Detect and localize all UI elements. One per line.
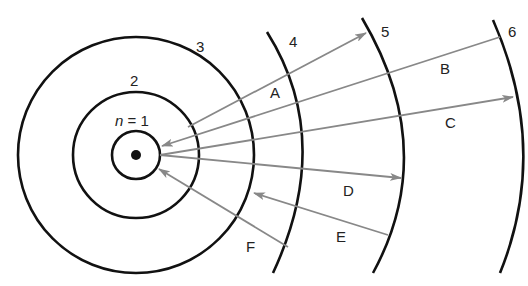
transition-label-d: D bbox=[343, 182, 354, 199]
orbit-label-n4: 4 bbox=[289, 33, 297, 50]
transition-label-e: E bbox=[336, 228, 346, 245]
orbit-label-n5: 5 bbox=[381, 23, 389, 40]
transition-arrow-c bbox=[160, 97, 513, 155]
transition-label-f: F bbox=[246, 238, 255, 255]
transition-label-b: B bbox=[440, 60, 450, 77]
bohr-diagram: n = 1 2 3 4 5 6 A B C D E F bbox=[0, 0, 528, 286]
orbit-label-n3: 3 bbox=[196, 38, 204, 55]
transition-arrow-e bbox=[254, 193, 388, 235]
orbit-n6-arc bbox=[493, 20, 523, 273]
orbit-label-n1: n = 1 bbox=[115, 112, 149, 129]
orbit-label-n6: 6 bbox=[508, 23, 516, 40]
orbit-label-n2: 2 bbox=[130, 72, 138, 89]
transition-label-c: C bbox=[445, 114, 456, 131]
orbit-n5-arc bbox=[362, 18, 404, 273]
transition-label-a: A bbox=[270, 84, 280, 101]
nucleus bbox=[131, 150, 141, 160]
diagram-canvas: n = 1 2 3 4 5 6 A B C D E F bbox=[0, 0, 528, 286]
